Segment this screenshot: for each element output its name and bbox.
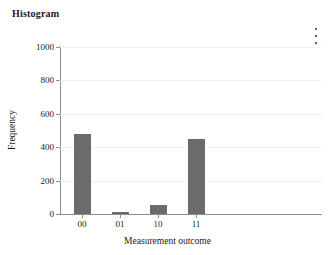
x-tick-mark xyxy=(120,214,121,218)
x-tick-mark xyxy=(158,214,159,218)
x-tick-mark xyxy=(196,214,197,218)
x-tick-label: 00 xyxy=(78,220,87,229)
plot-area: 0200400600800100000011011 xyxy=(60,47,322,214)
y-tick-label: 800 xyxy=(41,76,55,85)
x-axis-line xyxy=(60,214,322,215)
y-tick-mark xyxy=(56,47,60,48)
histogram-bar[interactable] xyxy=(74,134,91,214)
x-tick-label: 10 xyxy=(154,220,163,229)
histogram-bar[interactable] xyxy=(150,205,167,214)
y-tick-mark xyxy=(56,214,60,215)
y-tick-mark xyxy=(56,181,60,182)
x-axis-title: Measurement outcome xyxy=(60,236,275,246)
y-axis-title: Frequency xyxy=(7,110,17,150)
gridline xyxy=(60,80,322,81)
histogram-figure: 0200400600800100000011011 Measurement ou… xyxy=(0,0,332,255)
y-tick-label: 200 xyxy=(41,176,55,185)
histogram-bar[interactable] xyxy=(188,139,205,214)
x-tick-label: 11 xyxy=(192,220,201,229)
y-tick-mark xyxy=(56,80,60,81)
x-tick-mark xyxy=(82,214,83,218)
y-tick-label: 400 xyxy=(41,143,55,152)
y-tick-mark xyxy=(56,114,60,115)
gridline xyxy=(60,114,322,115)
y-tick-label: 600 xyxy=(41,109,55,118)
x-tick-label: 01 xyxy=(116,220,125,229)
y-tick-label: 1000 xyxy=(36,43,54,52)
y-tick-label: 0 xyxy=(50,210,55,219)
y-tick-mark xyxy=(56,147,60,148)
gridline xyxy=(60,47,322,48)
